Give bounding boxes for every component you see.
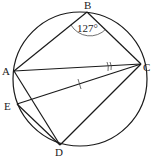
angle-label-b: 127° bbox=[77, 22, 98, 34]
point-label-c: C bbox=[143, 61, 150, 73]
point-label-a: A bbox=[2, 65, 10, 77]
geometry-diagram: 127° B C A E D bbox=[0, 0, 152, 156]
segment-dc bbox=[60, 64, 141, 145]
point-label-b: B bbox=[84, 0, 91, 11]
point-label-e: E bbox=[4, 100, 11, 112]
point-label-d: D bbox=[55, 146, 63, 156]
angle-mark-c-1 bbox=[107, 62, 108, 71]
